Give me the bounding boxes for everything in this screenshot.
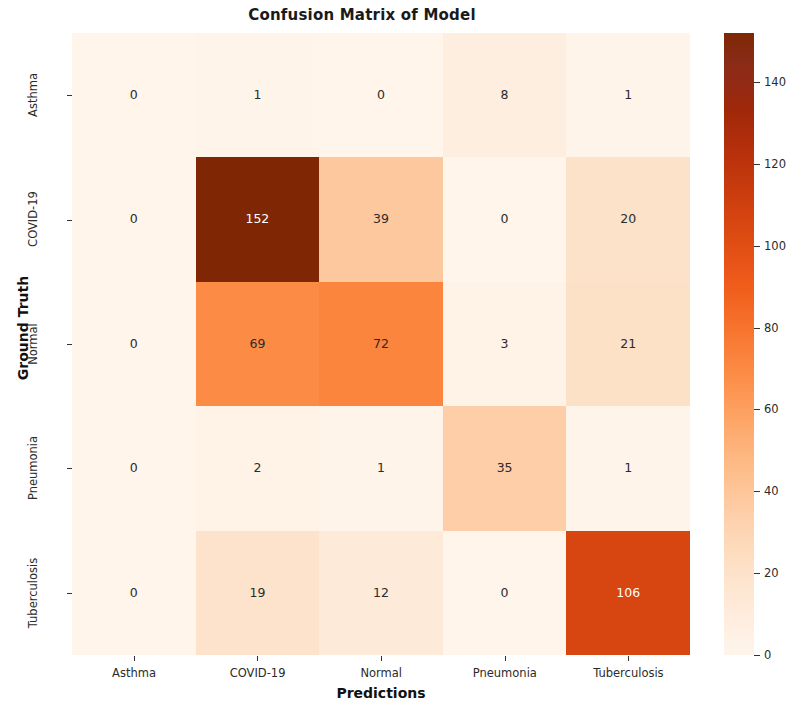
heatmap-cell-value: 1 (253, 89, 261, 102)
y-tick-mark (67, 468, 72, 469)
heatmap-cell-value: 35 (497, 462, 513, 475)
heatmap-cell-value: 3 (501, 338, 509, 351)
heatmap-cell: 1 (319, 406, 443, 530)
x-tick-label: Tuberculosis (566, 666, 690, 682)
heatmap-cell-value: 12 (373, 587, 389, 600)
heatmap-cell: 8 (443, 33, 567, 157)
heatmap-cell-value: 20 (620, 213, 636, 226)
colorbar-tick-mark (754, 164, 760, 165)
heatmap-cell: 35 (443, 406, 567, 530)
x-tick-label-text: COVID-19 (230, 666, 286, 680)
x-tick-mark (505, 656, 506, 661)
heatmap-cell: 0 (72, 33, 196, 157)
heatmap-grid: 0108101523902006972321021351019120106 (72, 33, 690, 655)
heatmap-cell: 0 (72, 406, 196, 530)
y-tick-label: Tuberculosis (18, 531, 48, 655)
colorbar-tick-mark (754, 655, 760, 656)
colorbar-tick-mark (754, 246, 760, 247)
y-tick-mark (67, 220, 72, 221)
heatmap-cell: 72 (319, 282, 443, 406)
heatmap-cell-value: 0 (501, 587, 509, 600)
x-tick-mark (257, 656, 258, 661)
heatmap-cell-value: 0 (377, 89, 385, 102)
heatmap-cell-value: 0 (130, 587, 138, 600)
heatmap-cell-value: 21 (620, 338, 636, 351)
x-tick-mark (628, 656, 629, 661)
colorbar-tick-label: 140 (764, 75, 786, 89)
heatmap-cell-value: 69 (249, 338, 265, 351)
heatmap-cell-value: 0 (130, 338, 138, 351)
colorbar-tick-mark (754, 82, 760, 83)
colorbar-tick-mark (754, 328, 760, 329)
chart-title: Confusion Matrix of Model (0, 6, 724, 24)
heatmap-cell-value: 1 (624, 462, 632, 475)
y-tick-mark (67, 593, 72, 594)
colorbar-tick-label: 60 (764, 402, 779, 416)
colorbar-gradient (724, 33, 754, 655)
heatmap-cell: 0 (443, 531, 567, 655)
heatmap-cell: 39 (319, 157, 443, 281)
heatmap-cell: 1 (566, 33, 690, 157)
heatmap-cell-value: 106 (616, 587, 640, 600)
y-tick-label-text: Pneumonia (26, 436, 40, 500)
heatmap-cell-value: 0 (130, 213, 138, 226)
heatmap-plot-area: 0108101523902006972321021351019120106 (72, 33, 690, 655)
heatmap-cell: 0 (319, 33, 443, 157)
x-tick-label-text: Pneumonia (473, 666, 537, 680)
colorbar-tick-label: 120 (764, 157, 786, 171)
heatmap-cell: 12 (319, 531, 443, 655)
heatmap-cell-value: 19 (249, 587, 265, 600)
heatmap-cell-value: 8 (501, 89, 509, 102)
heatmap-cell-value: 0 (501, 213, 509, 226)
heatmap-cell-value: 0 (130, 462, 138, 475)
y-tick-label-text: Tuberculosis (26, 557, 40, 627)
heatmap-cell: 21 (566, 282, 690, 406)
y-tick-label: Asthma (18, 33, 48, 157)
x-tick-label-text: Tuberculosis (593, 666, 663, 680)
heatmap-cell: 19 (196, 531, 320, 655)
y-tick-label-text: Asthma (26, 73, 40, 117)
y-tick-mark (67, 344, 72, 345)
heatmap-cell: 106 (566, 531, 690, 655)
x-tick-label: COVID-19 (196, 666, 320, 682)
x-tick-label: Pneumonia (443, 666, 567, 682)
heatmap-cell-value: 1 (377, 462, 385, 475)
x-tick-mark (381, 656, 382, 661)
heatmap-cell: 0 (72, 282, 196, 406)
colorbar-tick-label: 0 (764, 648, 771, 662)
y-tick-label-text: COVID-19 (26, 192, 40, 248)
heatmap-cell-value: 0 (130, 89, 138, 102)
heatmap-cell: 0 (443, 157, 567, 281)
heatmap-cell: 0 (72, 531, 196, 655)
y-tick-label: Pneumonia (18, 406, 48, 530)
heatmap-cell: 2 (196, 406, 320, 530)
heatmap-cell: 0 (72, 157, 196, 281)
x-tick-label-text: Asthma (112, 666, 156, 680)
heatmap-cell: 152 (196, 157, 320, 281)
heatmap-cell: 1 (196, 33, 320, 157)
heatmap-cell: 1 (566, 406, 690, 530)
colorbar-tick-label: 40 (764, 484, 779, 498)
y-axis-label: Ground Truth (15, 248, 35, 408)
colorbar-tick-label: 100 (764, 239, 786, 253)
colorbar-tick-mark (754, 573, 760, 574)
heatmap-cell: 20 (566, 157, 690, 281)
colorbar-tick-mark (754, 409, 760, 410)
colorbar-tick-mark (754, 491, 760, 492)
colorbar-tick-label: 20 (764, 566, 779, 580)
heatmap-cell-value: 1 (624, 89, 632, 102)
x-tick-label: Asthma (72, 666, 196, 682)
colorbar (724, 33, 754, 655)
y-tick-mark (67, 95, 72, 96)
confusion-matrix-figure: Confusion Matrix of Model 01081015239020… (0, 0, 798, 713)
heatmap-cell: 3 (443, 282, 567, 406)
x-axis-label: Predictions (72, 685, 690, 701)
colorbar-tick-label: 80 (764, 321, 779, 335)
x-tick-mark (134, 656, 135, 661)
heatmap-cell-value: 2 (253, 462, 261, 475)
heatmap-cell-value: 152 (245, 213, 269, 226)
heatmap-cell: 69 (196, 282, 320, 406)
heatmap-cell-value: 72 (373, 338, 389, 351)
x-tick-label-text: Normal (360, 666, 402, 680)
x-tick-label: Normal (319, 666, 443, 682)
